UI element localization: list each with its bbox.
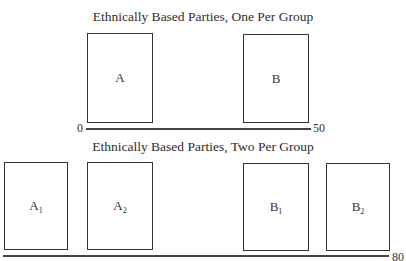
party-label: B1 (244, 199, 308, 216)
axis-2-max-label: 80 (392, 250, 404, 261)
party-box-a: A (87, 33, 153, 123)
party-box-a1: A1 (4, 162, 68, 250)
party-label: A (88, 70, 152, 86)
panel-1-title: Ethnically Based Parties, One Per Group (0, 9, 406, 25)
party-box-b: B (243, 34, 309, 123)
party-box-b2: B2 (326, 163, 390, 251)
party-label: B2 (327, 199, 389, 216)
party-label: A2 (88, 198, 152, 215)
axis-1-max-label: 50 (313, 121, 325, 136)
axis-2-line (3, 255, 389, 257)
axis-1-line (86, 128, 311, 130)
panel-2-title: Ethnically Based Parties, Two Per Group (0, 139, 406, 155)
axis-1-min-label: 0 (77, 121, 83, 136)
party-box-a2: A2 (87, 162, 153, 250)
party-label: A1 (5, 198, 67, 215)
party-label: B (244, 71, 308, 87)
party-box-b1: B1 (243, 163, 309, 251)
